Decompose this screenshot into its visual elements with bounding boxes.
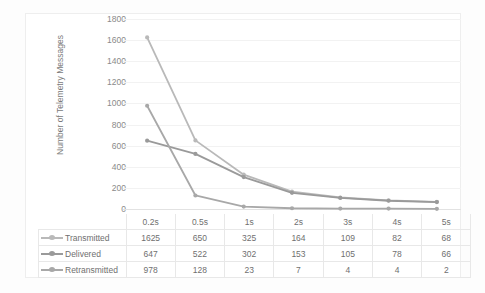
table-cell: 1625 [126, 230, 175, 246]
table-cell: 4 [372, 262, 421, 278]
table-cell: 302 [225, 246, 274, 262]
y-axis-tick: 200 [86, 183, 126, 193]
series-lines [123, 19, 461, 209]
table-corner-cell [39, 214, 127, 230]
series-marker [145, 139, 149, 143]
y-axis-tick-labels: 020040060080010001200140016001800 [86, 19, 126, 209]
series-marker [435, 207, 439, 211]
table-cell: 78 [372, 246, 421, 262]
y-axis-tick: 400 [86, 162, 126, 172]
table-row: Retransmitted978128237442 [39, 262, 471, 278]
chart-data-table: 0.2s0.5s1s2s3s4s5sTransmitted16256503251… [38, 214, 471, 278]
table-category-row: 0.2s0.5s1s2s3s4s5s [39, 214, 471, 230]
series-marker [193, 152, 197, 156]
y-axis-tick: 1400 [86, 56, 126, 66]
legend-label: Retransmitted [65, 265, 118, 275]
table-row: Delivered6475223021531057866 [39, 246, 471, 262]
y-axis-tick: 1800 [86, 14, 126, 24]
series-marker [338, 206, 342, 210]
table-cell: 522 [175, 246, 224, 262]
series-marker [242, 204, 246, 208]
series-line [147, 37, 437, 201]
table-cell: 109 [323, 230, 372, 246]
table-cell: 66 [422, 246, 471, 262]
table-cell: 978 [126, 262, 175, 278]
legend-swatch-icon [41, 266, 63, 273]
table-cell: 105 [323, 246, 372, 262]
plot-area [123, 19, 461, 209]
y-axis-tick: 1200 [86, 77, 126, 87]
legend-label: Delivered [65, 249, 101, 259]
y-axis-tick: 0 [86, 204, 126, 214]
x-axis-category-label: 4s [372, 214, 421, 230]
y-axis-tick: 800 [86, 120, 126, 130]
series-marker [242, 175, 246, 179]
table-cell: 647 [126, 246, 175, 262]
plot-wrap: 020040060080010001200140016001800 [26, 14, 462, 214]
table-cell: 164 [274, 230, 323, 246]
series-marker [338, 196, 342, 200]
series-marker [290, 191, 294, 195]
table-row: Transmitted16256503251641098268 [39, 230, 471, 246]
table-cell: 153 [274, 246, 323, 262]
x-axis-category-label: 0.2s [126, 214, 175, 230]
table-cell: 68 [422, 230, 471, 246]
x-axis-category-label: 0.5s [175, 214, 224, 230]
series-marker [145, 104, 149, 108]
y-axis-tick: 1000 [86, 98, 126, 108]
table-cell: 82 [372, 230, 421, 246]
table-cell: 650 [175, 230, 224, 246]
series-marker [145, 35, 149, 39]
y-axis-tick: 1600 [86, 35, 126, 45]
table-cell: 4 [323, 262, 372, 278]
table-cell: 325 [225, 230, 274, 246]
legend-entry[interactable]: Transmitted [39, 230, 127, 246]
x-axis-category-label: 5s [422, 214, 471, 230]
series-marker [193, 193, 197, 197]
table-cell: 23 [225, 262, 274, 278]
table-cell: 128 [175, 262, 224, 278]
chart-frame: Number of Telemetry Messages 02004006008… [25, 13, 461, 278]
screenshot-root: Number of Telemetry Messages 02004006008… [0, 0, 485, 293]
legend-swatch-icon [41, 234, 63, 241]
x-axis-category-label: 3s [323, 214, 372, 230]
series-marker [435, 200, 439, 204]
series-marker [386, 199, 390, 203]
table-cell: 2 [422, 262, 471, 278]
series-marker [386, 206, 390, 210]
x-axis-category-label: 1s [225, 214, 274, 230]
legend-label: Transmitted [65, 233, 110, 243]
table-cell: 7 [274, 262, 323, 278]
legend-entry[interactable]: Retransmitted [39, 262, 127, 278]
series-marker [290, 206, 294, 210]
series-marker [193, 138, 197, 142]
legend-swatch-icon [41, 250, 63, 257]
legend-entry[interactable]: Delivered [39, 246, 127, 262]
x-axis-category-label: 2s [274, 214, 323, 230]
y-axis-tick: 600 [86, 141, 126, 151]
